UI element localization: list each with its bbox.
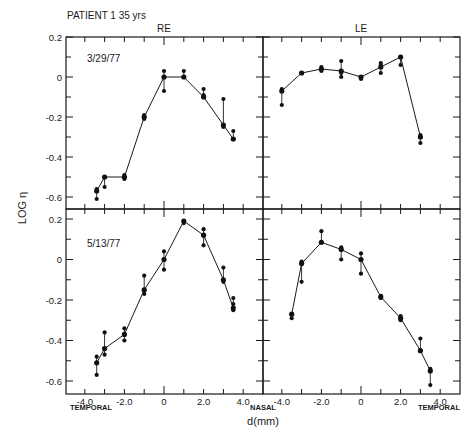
series-line	[282, 57, 421, 137]
data-point	[202, 243, 206, 247]
data-point	[95, 355, 99, 359]
figure-title: PATIENT 1 35 yrs	[67, 10, 146, 21]
data-point	[399, 63, 403, 67]
data-point	[379, 63, 383, 67]
data-point	[202, 93, 206, 97]
data-point	[103, 185, 107, 189]
data-point	[142, 113, 146, 117]
data-point	[418, 349, 422, 353]
y-tick-label: -0.4	[46, 152, 62, 163]
data-point	[202, 227, 206, 231]
data-point	[162, 69, 166, 73]
data-point	[202, 87, 206, 91]
data-point	[359, 77, 363, 81]
data-point	[358, 257, 363, 262]
x-tick-label: 2.0	[197, 396, 210, 407]
data-point	[418, 135, 422, 139]
data-point	[102, 346, 107, 351]
data-point	[142, 117, 146, 121]
data-point	[418, 336, 422, 340]
data-point	[103, 330, 107, 334]
data-point	[142, 292, 146, 296]
column-label-re: RE	[157, 23, 171, 34]
y-tick-label: -0.6	[46, 376, 62, 387]
data-point	[231, 308, 235, 312]
x-tick-label: -2.0	[116, 396, 132, 407]
data-point	[359, 251, 363, 255]
data-point	[231, 302, 235, 306]
x-tick-label: 0	[161, 396, 166, 407]
direction-label-temporal-right: TEMPORAL	[418, 403, 461, 412]
y-tick-label: -0.4	[46, 335, 62, 346]
data-point	[142, 274, 146, 278]
data-point	[319, 240, 324, 245]
data-point	[280, 87, 284, 91]
y-tick-labels: 0.20-0.2-0.4-0.60.20-0.2-0.4-0.6	[46, 32, 62, 387]
data-point	[221, 266, 225, 270]
data-point	[300, 71, 304, 75]
data-point	[399, 55, 403, 59]
data-point	[122, 177, 126, 181]
data-point	[122, 326, 126, 330]
x-axis-title: d(mm)	[247, 415, 279, 427]
data-point	[221, 97, 225, 101]
panel-le-3-29-77	[263, 37, 460, 209]
x-tick-label: 4.0	[237, 396, 250, 407]
data-point	[319, 229, 323, 233]
data-point	[399, 314, 403, 318]
data-point	[359, 272, 363, 276]
series-line	[97, 77, 234, 191]
data-point	[182, 75, 186, 79]
data-point	[103, 353, 107, 357]
data-point	[122, 332, 127, 337]
x-tick-label: -2.0	[313, 396, 329, 407]
data-point	[182, 69, 186, 73]
data-point	[418, 141, 422, 145]
data-point	[231, 137, 235, 141]
direction-label-nasal: NASAL	[250, 403, 276, 412]
data-point	[339, 257, 343, 261]
data-point	[95, 373, 99, 377]
y-tick-label: -0.2	[46, 295, 62, 306]
data-point	[280, 103, 284, 107]
data-point	[201, 233, 206, 238]
column-label-le: LE	[355, 23, 368, 34]
data-point	[162, 89, 166, 93]
panel-re-5-13-77	[66, 209, 263, 394]
panel-frame	[263, 37, 460, 209]
panel-le-5-13-77	[263, 209, 460, 394]
y-tick-label: 0	[57, 254, 62, 265]
y-axis-title: LOG η	[16, 192, 28, 224]
x-tick-label: 0	[358, 396, 363, 407]
data-point	[300, 259, 304, 263]
data-point	[339, 245, 343, 249]
data-point	[122, 338, 126, 342]
data-point	[161, 74, 166, 79]
data-point	[95, 197, 99, 201]
data-point	[399, 318, 403, 322]
x-tick-label: -4.0	[274, 396, 290, 407]
x-tick-label: 2.0	[394, 396, 407, 407]
data-point	[289, 312, 294, 317]
data-point	[231, 296, 235, 300]
data-point	[339, 75, 343, 79]
data-point	[339, 59, 343, 63]
figure-canvas: PATIENT 1 35 yrs RE LE LOG η 3/29/77 5/1…	[0, 0, 473, 439]
data-point	[162, 268, 166, 272]
panel-frame	[263, 209, 460, 394]
data-point	[122, 173, 126, 177]
y-tick-label: -0.6	[46, 192, 62, 203]
date-label-top: 3/29/77	[87, 53, 121, 64]
y-tick-label: -0.2	[46, 112, 62, 123]
data-point	[102, 174, 107, 179]
data-point	[142, 287, 147, 292]
data-point	[290, 316, 294, 320]
direction-label-temporal-left: TEMPORAL	[70, 403, 113, 412]
data-point	[339, 71, 343, 75]
data-point	[300, 280, 304, 284]
y-tick-label: 0	[57, 72, 62, 83]
date-label-bottom: 5/13/77	[87, 238, 121, 249]
data-point	[428, 383, 432, 387]
data-point	[221, 125, 225, 129]
data-point	[379, 296, 383, 300]
